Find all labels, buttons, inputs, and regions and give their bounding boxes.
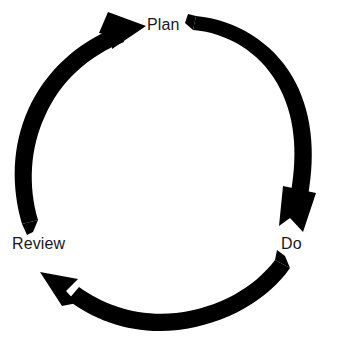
arrow-plan-to-do-head — [279, 186, 316, 232]
cycle-diagram: Plan Do Review — [0, 0, 338, 346]
stage-label-do: Do — [281, 236, 302, 252]
stage-label-plan: Plan — [147, 17, 179, 33]
stage-label-review: Review — [12, 236, 65, 252]
arrow-plan-to-do — [185, 14, 316, 232]
arrow-do-to-review-head — [40, 272, 78, 306]
arrow-review-to-plan-body — [15, 27, 124, 224]
arrow-do-to-review-body — [68, 260, 290, 331]
arrow-review-to-plan — [15, 12, 146, 235]
arrow-do-to-review — [40, 250, 290, 331]
cycle-arrows-graphic — [0, 0, 338, 346]
arrow-plan-to-do-body — [193, 16, 312, 196]
